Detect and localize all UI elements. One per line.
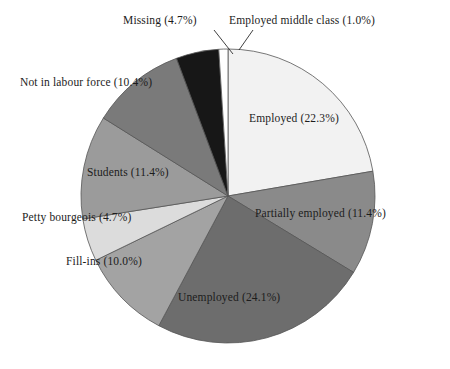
slice-label-employed-middle-class: Employed middle class (1.0%) — [229, 14, 375, 27]
slice-label-unemployed: Unemployed (24.1%) — [178, 291, 280, 304]
leader-line-employed-middle-class — [239, 30, 253, 50]
slice-label-petty-bourgeois: Petty bourgeois (4.7%) — [22, 211, 131, 224]
slice-label-missing: Missing (4.7%) — [123, 14, 197, 27]
pie-chart-figure: Missing (4.7%) Employed middle class (1.… — [0, 0, 450, 369]
slice-label-fill-ins: Fill-ins (10.0%) — [66, 255, 142, 268]
slice-label-partially-employed: Partially employed (11.4%) — [255, 207, 386, 220]
slice-label-students: Students (11.4%) — [87, 166, 169, 179]
pie-chart-svg — [0, 0, 450, 369]
slice-label-not-in-labour-force: Not in labour force (10.4%) — [20, 76, 152, 89]
slice-label-employed: Employed (22.3%) — [249, 112, 339, 125]
